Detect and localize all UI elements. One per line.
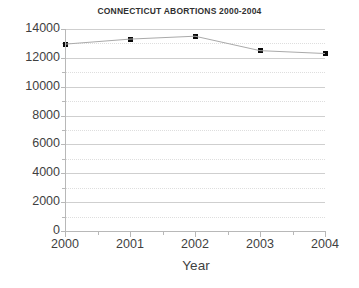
x-axis-tick-minor [163,232,164,235]
x-axis-tick-label: 2002 [165,238,225,251]
y-axis-tick-label: 0 [2,224,60,237]
x-axis-tick-minor [228,232,229,235]
y-axis-tick-label: 4000 [2,166,60,179]
chart-container: CONNECTICUT ABORTIONS 2000-2004 02000400… [0,0,359,288]
x-axis-tick-labels: 20002001200220032004 [65,238,327,258]
x-axis-tick-label: 2001 [100,238,160,251]
y-axis-tick-label: 2000 [2,195,60,208]
y-axis-tick-label: 12000 [2,51,60,64]
chart-title: CONNECTICUT ABORTIONS 2000-2004 [0,6,359,16]
x-axis-tick-minor [293,232,294,235]
y-axis-tick-label: 8000 [2,109,60,122]
x-axis-tick-label: 2003 [230,238,290,251]
y-axis-tick-labels: 02000400060008000100001200014000 [0,29,60,232]
x-axis-tick-label: 2004 [295,238,355,251]
series-line [65,29,326,232]
y-axis-tick-label: 6000 [2,137,60,150]
y-axis-tick-label: 10000 [2,80,60,93]
x-axis-title: Year [65,258,327,273]
x-axis-tick-minor [98,232,99,235]
x-axis-tick-label: 2000 [35,238,95,251]
y-axis-tick-label: 14000 [2,22,60,35]
